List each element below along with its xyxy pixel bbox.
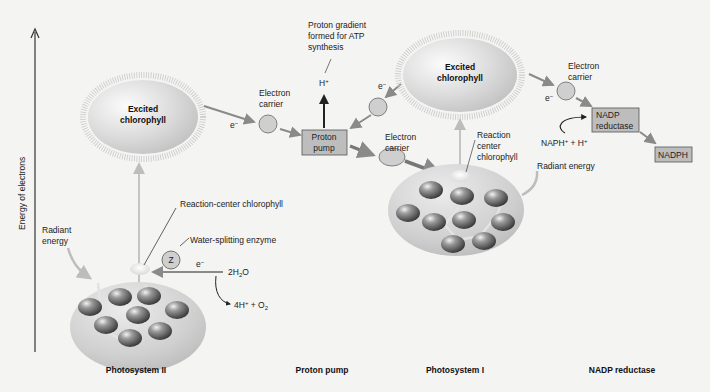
svg-text:e−: e− <box>230 120 239 130</box>
svg-text:e−: e− <box>545 93 554 103</box>
svg-text:Reaction: Reaction <box>477 130 511 140</box>
svg-text:center: center <box>477 141 501 151</box>
svg-text:carrier: carrier <box>568 72 592 82</box>
svg-text:synthesis: synthesis <box>308 42 343 52</box>
electron-carrier-2 <box>369 98 387 116</box>
svg-text:carrier: carrier <box>259 99 283 109</box>
svg-text:H+: H+ <box>319 78 329 88</box>
svg-text:pump: pump <box>313 143 335 153</box>
electron-arrow-8 <box>576 98 591 106</box>
reaction-center-ps2 <box>130 263 150 275</box>
svg-text:e−: e− <box>378 81 387 91</box>
svg-text:2H2O: 2H2O <box>228 267 249 278</box>
svg-text:Proton gradient: Proton gradient <box>308 20 367 30</box>
svg-text:chlorophyll: chlorophyll <box>437 73 483 83</box>
svg-text:Proton: Proton <box>311 132 336 142</box>
svg-text:reductase: reductase <box>596 121 634 131</box>
electron-arrow-1 <box>204 106 254 122</box>
label-proton-pump: Proton pump <box>296 365 349 375</box>
svg-text:e−: e− <box>196 259 205 269</box>
svg-text:Water-splitting enzyme: Water-splitting enzyme <box>190 235 276 245</box>
nadp-reductase-stage: e− Electron carrier NADP reductase NAPH+… <box>529 61 692 162</box>
svg-text:Excited: Excited <box>445 62 475 72</box>
stage-labels: Photosystem II Proton pump Photosystem I… <box>106 365 656 375</box>
electron-arrow-7 <box>529 74 553 85</box>
svg-text:Electron: Electron <box>259 88 290 98</box>
electron-arrow-4 <box>351 115 371 128</box>
water-split-arrow <box>216 276 230 304</box>
energy-axis: Energy of electrons <box>17 29 39 352</box>
svg-text:energy: energy <box>42 236 69 246</box>
svg-text:Z: Z <box>168 255 173 265</box>
svg-text:NAPH+ + H+: NAPH+ + H+ <box>541 138 588 148</box>
svg-text:Reaction-center chlorophyll: Reaction-center chlorophyll <box>180 199 283 209</box>
svg-text:4H+ + O2: 4H+ + O2 <box>234 300 269 311</box>
axis-label: Energy of electrons <box>17 157 27 230</box>
svg-text:Radiant: Radiant <box>42 225 72 235</box>
svg-text:Electron: Electron <box>385 132 416 142</box>
svg-text:NADPH: NADPH <box>658 150 688 160</box>
radiant-energy-arrow-ps1 <box>522 171 537 195</box>
svg-text:chlorophyll: chlorophyll <box>120 115 166 125</box>
electron-carrier-1 <box>259 115 277 133</box>
nadp-input-arrow <box>560 117 586 133</box>
nadph-arrow <box>640 132 655 143</box>
svg-text:Electron: Electron <box>568 61 599 71</box>
electron-carrier-4 <box>557 82 575 100</box>
label-photosystem-i: Photosystem I <box>426 365 484 375</box>
reaction-center-ps1 <box>450 170 470 182</box>
svg-text:formed for ATP: formed for ATP <box>308 31 365 41</box>
svg-text:carrier: carrier <box>385 143 409 153</box>
label-photosystem-ii: Photosystem II <box>106 365 166 375</box>
svg-text:NADP: NADP <box>596 110 620 120</box>
electron-arrow-5 <box>350 146 373 155</box>
radiant-energy-arrow-ps2 <box>68 248 90 278</box>
electron-arrow-2 <box>280 129 300 135</box>
svg-text:chlorophyll: chlorophyll <box>477 152 518 162</box>
photosynthesis-diagram: Energy of electrons Excited chlorophyll <box>0 0 710 392</box>
label-nadp-reductase: NADP reductase <box>589 365 656 375</box>
svg-text:Excited: Excited <box>128 104 158 114</box>
svg-text:Radiant energy: Radiant energy <box>537 161 595 171</box>
